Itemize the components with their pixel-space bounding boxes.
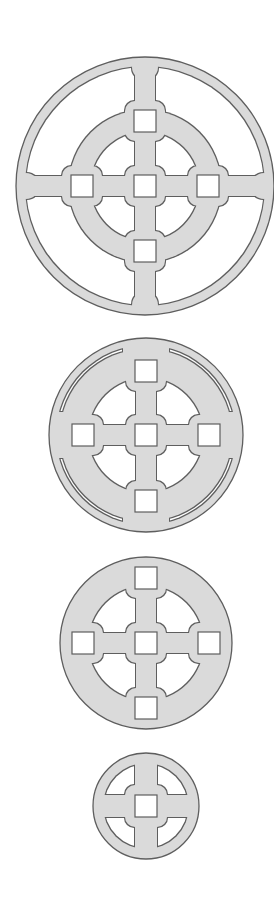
square-hole (135, 360, 157, 382)
pattern-canvas (0, 0, 274, 899)
square-hole (135, 567, 157, 589)
square-hole (135, 490, 157, 512)
pattern-medium-solid (60, 557, 232, 729)
square-hole (134, 240, 156, 262)
square-hole (71, 175, 93, 197)
square-hole (134, 110, 156, 132)
square-hole (198, 424, 220, 446)
pattern-large (16, 57, 274, 315)
square-hole (72, 424, 94, 446)
square-hole (72, 632, 94, 654)
square-hole (198, 632, 220, 654)
square-hole (135, 632, 157, 654)
square-hole (197, 175, 219, 197)
square-hole (135, 697, 157, 719)
pattern-small (93, 753, 199, 859)
square-hole (134, 175, 156, 197)
square-hole (135, 795, 157, 817)
square-hole (135, 424, 157, 446)
pattern-medium-slotted (49, 338, 243, 532)
